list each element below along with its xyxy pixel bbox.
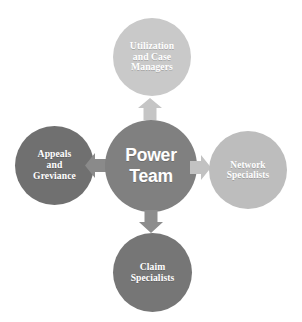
node-label-network-specialists: Network Specialists bbox=[223, 160, 273, 181]
arrow-left-icon bbox=[85, 153, 107, 178]
node-label-appeals-and-greviance: Appeals and Greviance bbox=[29, 149, 80, 181]
node-utilization-and-case-managers[interactable]: Utilization and Case Managers bbox=[113, 18, 191, 96]
node-label-utilization-and-case-managers: Utilization and Case Managers bbox=[126, 41, 178, 73]
node-appeals-and-greviance[interactable]: Appeals and Greviance bbox=[15, 126, 94, 205]
diagram-canvas: Utilization and Case Managers Appeals an… bbox=[0, 0, 302, 322]
node-power-team[interactable]: Power Team bbox=[105, 120, 197, 212]
arrow-down-icon bbox=[139, 210, 163, 233]
arrow-right-icon bbox=[190, 155, 211, 180]
node-claim-specialists[interactable]: Claim Specialists bbox=[113, 233, 192, 312]
node-label-claim-specialists: Claim Specialists bbox=[127, 262, 179, 283]
arrow-up-icon bbox=[138, 98, 162, 120]
node-label-power-team: Power Team bbox=[121, 145, 181, 186]
node-network-specialists[interactable]: Network Specialists bbox=[209, 131, 287, 209]
